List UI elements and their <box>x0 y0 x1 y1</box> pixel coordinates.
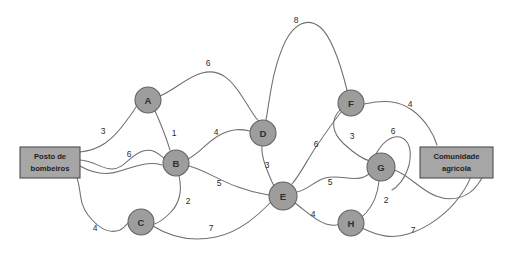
agricultural-community-box: Comunidadeagrícola <box>420 147 493 178</box>
node-H-label: H <box>348 218 355 229</box>
node-B[interactable]: B <box>163 150 189 176</box>
edge-weight-E-H: 4 <box>311 209 316 219</box>
edge-weight-C-E: 7 <box>209 223 214 233</box>
agricultural-community-box-line2: agrícola <box>442 164 472 173</box>
edge-weight-D-E: 3 <box>265 160 270 170</box>
edge-A-B <box>155 111 170 150</box>
edge-A-D <box>160 72 259 121</box>
edge-weight-F-end: 4 <box>408 99 413 109</box>
edge-weight-A-D: 6 <box>206 58 211 68</box>
fire-station-box: Posto debombeiros <box>20 147 80 178</box>
node-D[interactable]: D <box>250 120 276 146</box>
graph-diagram: Posto debombeirosComunidadeagrícola ABCD… <box>0 0 506 253</box>
node-F[interactable]: F <box>338 90 364 116</box>
node-A[interactable]: A <box>135 87 161 113</box>
edge-weight-A-B: 1 <box>172 128 177 138</box>
edge-start-B <box>80 150 165 169</box>
node-C[interactable]: C <box>128 209 154 235</box>
nodes-layer: ABCDEFGH <box>128 87 395 236</box>
edge-weight-G-end-top: 6 <box>391 126 396 136</box>
edge-weight-B-D: 4 <box>214 127 219 137</box>
edge-C-E <box>153 203 270 239</box>
node-C-label: C <box>138 217 145 228</box>
fire-station-box-line2: bombeiros <box>31 164 70 173</box>
edge-weight-F-G: 3 <box>350 131 355 141</box>
edge-B-E <box>189 166 269 195</box>
edge-weight-start-A: 3 <box>101 126 106 136</box>
agricultural-community-box-line1: Comunidade <box>434 152 480 161</box>
node-G-label: G <box>377 162 384 173</box>
node-B-label: B <box>173 158 180 169</box>
edge-weight-B-C: 2 <box>186 196 191 206</box>
edge-E-H <box>295 203 339 225</box>
node-D-label: D <box>260 128 267 139</box>
edge-E-G <box>297 171 372 192</box>
edge-weight-D-F: 8 <box>294 15 299 25</box>
edge-weight-E-F: 6 <box>314 139 319 149</box>
edge-weight-start-C: 4 <box>93 223 98 233</box>
edge-B-D <box>188 130 250 159</box>
edge-weight-start-B: 6 <box>127 149 132 159</box>
node-E-label: E <box>280 191 286 202</box>
edge-weight-G-H: 2 <box>384 195 389 205</box>
node-H[interactable]: H <box>338 210 364 236</box>
edge-start-lower-branch <box>80 164 162 174</box>
network-graph-canvas: Posto debombeirosComunidadeagrícola ABCD… <box>0 0 506 253</box>
node-E[interactable]: E <box>269 182 297 210</box>
fire-station-box-line1: Posto de <box>34 152 66 161</box>
edge-weight-H-end: 7 <box>411 225 416 235</box>
edge-D-F <box>266 22 347 120</box>
edge-F-end <box>364 102 437 145</box>
node-F-label: F <box>348 98 354 109</box>
edge-weight-E-G: 5 <box>328 177 333 187</box>
edge-start-A <box>80 104 137 152</box>
edge-B-C <box>152 176 180 224</box>
edge-start-C <box>76 175 129 231</box>
node-G[interactable]: G <box>367 153 395 181</box>
node-A-label: A <box>145 95 152 106</box>
edge-weight-B-E: 5 <box>217 178 222 188</box>
